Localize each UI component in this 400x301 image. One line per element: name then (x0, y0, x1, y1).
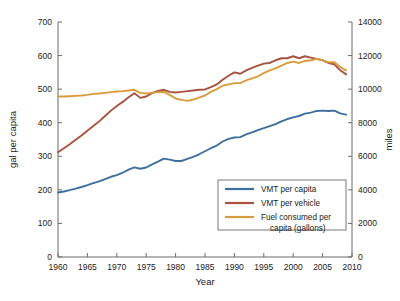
y-left-tick-label-7: 700 (38, 17, 52, 27)
y-left-tick-label-4: 400 (38, 118, 52, 128)
series-line-fuel-consumed-per-capita-gallons (58, 59, 346, 101)
y-right-tick-label-7: 14000 (358, 17, 382, 27)
y-right-tick-label-4: 8000 (358, 118, 377, 128)
y-left-axis-title: gal per capita (7, 110, 18, 168)
x-tick-label-7: 1995 (254, 262, 273, 272)
y-right-tick-label-0: 0 (358, 252, 363, 262)
series-line-vmt-per-vehicle (58, 56, 346, 152)
x-tick-label-10: 2010 (343, 262, 362, 272)
y-right-tick-label-1: 2000 (358, 218, 377, 228)
legend-label-2: Fuel consumed per (261, 213, 331, 222)
x-tick-label-1: 1965 (78, 262, 97, 272)
y-right-tick-label-2: 4000 (358, 185, 377, 195)
y-left-tick-label-1: 100 (38, 218, 52, 228)
x-tick-label-5: 1985 (196, 262, 215, 272)
legend-label-1: VMT per vehicle (261, 199, 320, 208)
x-axis-title: Year (195, 276, 214, 287)
y-right-tick-label-5: 10000 (358, 84, 382, 94)
legend-label-2-line2: capita (gallons) (270, 224, 326, 233)
y-left-tick-label-5: 500 (38, 84, 52, 94)
y-left-tick-label-0: 0 (47, 252, 52, 262)
y-left-tick-label-3: 300 (38, 151, 52, 161)
y-right-tick-label-6: 12000 (358, 51, 382, 61)
x-tick-label-2: 1970 (107, 262, 126, 272)
x-tick-label-3: 1975 (137, 262, 156, 272)
legend-label-0: VMT per capita (261, 185, 317, 194)
y-right-axis-title: miles (383, 128, 394, 150)
x-tick-label-0: 1960 (49, 262, 68, 272)
y-right-tick-label-3: 6000 (358, 151, 377, 161)
x-tick-label-9: 2005 (313, 262, 332, 272)
y-left-tick-label-6: 600 (38, 51, 52, 61)
x-tick-label-8: 2000 (284, 262, 303, 272)
x-tick-label-6: 1990 (225, 262, 244, 272)
chart-container: 1960196519701975198019851990199520002005… (0, 0, 400, 301)
y-left-tick-label-2: 200 (38, 185, 52, 195)
line-chart: 1960196519701975198019851990199520002005… (0, 0, 400, 301)
x-tick-label-4: 1980 (166, 262, 185, 272)
